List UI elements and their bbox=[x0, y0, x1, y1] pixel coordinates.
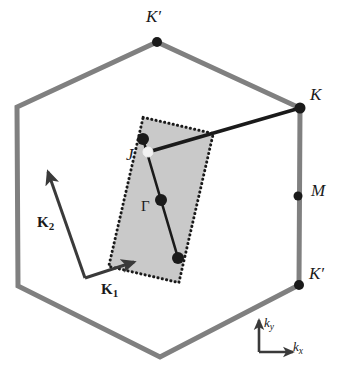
mini-zone-dot-j-open-dot bbox=[143, 147, 153, 157]
point-label-gamma: Γ bbox=[141, 199, 150, 214]
mini-zone-dot-bottom-dot bbox=[172, 252, 184, 264]
ky-axis-label: ky bbox=[264, 316, 274, 332]
vector-K1-label: K1 bbox=[101, 282, 118, 299]
brillouin-zone-figure: K′KMK′ J Γ K1K2 kx ky bbox=[0, 0, 346, 373]
mini-zone-dot-gamma-dot bbox=[155, 194, 167, 206]
high-symmetry-dot bbox=[152, 37, 162, 47]
high-symmetry-dot bbox=[294, 280, 304, 290]
point-label-m-right: M bbox=[311, 182, 325, 199]
kx-axis-label: kx bbox=[293, 340, 303, 356]
high-symmetry-dot bbox=[294, 192, 303, 201]
point-label-k-right: K bbox=[310, 86, 321, 103]
point-label-k-prime-bottom: K′ bbox=[309, 265, 324, 282]
brillouin-zone-canvas bbox=[0, 0, 346, 373]
mini-zone-dot-j-top-dot bbox=[137, 133, 149, 145]
high-symmetry-dot bbox=[295, 103, 306, 114]
point-label-j: J bbox=[126, 146, 134, 163]
vector-K2-label: K2 bbox=[37, 215, 54, 232]
point-label-k-prime-top: K′ bbox=[146, 8, 161, 25]
